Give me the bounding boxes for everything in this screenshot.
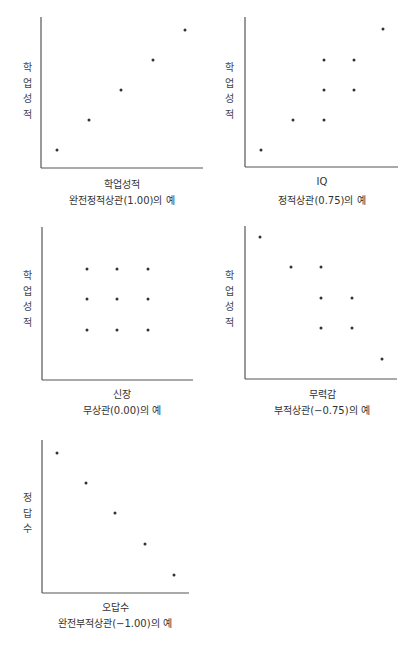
y-axis-label: 정답수 bbox=[20, 490, 34, 537]
data-point bbox=[144, 543, 147, 546]
x-axis-label: 오답수 bbox=[102, 599, 129, 614]
plot-area bbox=[0, 0, 416, 646]
data-point bbox=[56, 452, 59, 455]
data-point bbox=[114, 512, 117, 515]
chart-caption: 완전부적상관(−1.00)의 예 bbox=[58, 615, 172, 630]
y-axis-label-char: 수 bbox=[20, 521, 34, 537]
y-axis-label-char: 답 bbox=[20, 506, 34, 522]
y-axis-label-char: 정 bbox=[20, 490, 34, 506]
data-point bbox=[85, 482, 88, 485]
data-point bbox=[173, 574, 176, 577]
